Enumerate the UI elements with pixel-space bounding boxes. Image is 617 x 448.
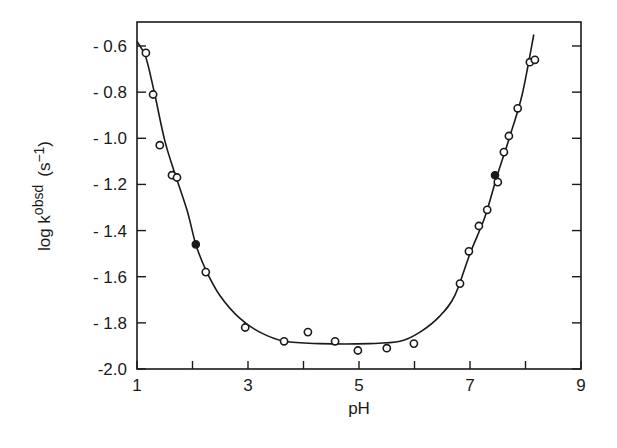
open-circle-marker [383, 345, 390, 352]
open-circle-marker [456, 280, 463, 287]
open-circle-marker [202, 269, 209, 276]
open-circle-marker [304, 329, 311, 336]
open-circle-marker [514, 105, 521, 112]
fitted-curve [137, 35, 534, 344]
open-circle-marker [475, 222, 482, 229]
open-circle-marker [332, 338, 339, 345]
svg-text:log kobsd(s−1): log kobsd(s−1) [30, 141, 54, 251]
y-axis-label-units-close: ) [35, 141, 54, 147]
y-tick-label: -2.0 [98, 360, 127, 379]
y-tick-label: - 0.8 [93, 83, 127, 102]
x-tick-label: 1 [132, 376, 141, 395]
open-circle-marker [410, 340, 417, 347]
open-circle-marker [281, 338, 288, 345]
open-circle-marker [484, 206, 491, 213]
filled-circle-marker [192, 241, 199, 248]
y-tick-label: - 1.2 [93, 175, 127, 194]
y-tick-label: - 1.4 [93, 222, 127, 241]
open-circle-marker [173, 174, 180, 181]
x-tick-label: 3 [243, 376, 252, 395]
ph-rate-profile-chart: 13579 - 0.6- 0.8- 1.0- 1.2- 1.4- 1.6- 1.… [0, 0, 617, 448]
plot-frame [137, 22, 581, 369]
open-circle-marker [242, 324, 249, 331]
open-circle-marker [505, 132, 512, 139]
y-tick-label: - 0.6 [93, 37, 127, 56]
open-circle-marker [150, 91, 157, 98]
fit-line [137, 35, 534, 344]
open-circle-marker [500, 149, 507, 156]
x-axis-ticks: 13579 [132, 361, 585, 395]
x-tick-label: 5 [354, 376, 363, 395]
y-tick-label: - 1.6 [93, 268, 127, 287]
open-circle-marker [465, 248, 472, 255]
y-axis-label: log kobsd(s−1) [30, 141, 54, 251]
y-axis-ticks: - 0.6- 0.8- 1.0- 1.2- 1.4- 1.6- 1.8-2.0 [93, 37, 581, 379]
x-tick-label: 9 [576, 376, 585, 395]
filled-circle-marker [491, 172, 498, 179]
y-axis-label-superscript: obsd [30, 185, 46, 215]
open-circle-marker [354, 347, 361, 354]
x-tick-label: 7 [465, 376, 474, 395]
y-axis-label-units-exp: −1 [31, 146, 47, 162]
y-axis-label-main: log k [35, 215, 54, 251]
open-circle-marker [142, 49, 149, 56]
plot-area-border [137, 22, 581, 369]
data-points [142, 49, 538, 354]
open-circle-marker [156, 142, 163, 149]
y-axis-label-units: (s [35, 163, 54, 177]
x-axis-label: pH [348, 399, 370, 418]
y-tick-label: - 1.0 [93, 129, 127, 148]
y-tick-label: - 1.8 [93, 314, 127, 333]
open-circle-marker [531, 56, 538, 63]
open-circle-marker [494, 179, 501, 186]
